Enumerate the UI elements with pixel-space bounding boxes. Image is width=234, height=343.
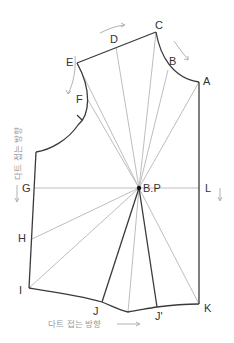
bodice-pattern-diagram: C D E B A F G B.P L H I J J' K 다트 접는 방향 …	[0, 0, 234, 343]
point-labels: C D E B A F G B.P L H I J J' K	[18, 19, 212, 322]
waistline-dart-point	[102, 302, 157, 312]
waistline-left	[29, 288, 102, 302]
armhole-curve	[36, 63, 88, 152]
side-seam-line	[29, 152, 36, 288]
pattern-outline	[29, 32, 199, 312]
label-a: A	[203, 75, 211, 87]
label-b: B	[169, 55, 176, 67]
left-direction-note: 다트 접는 방향	[13, 127, 23, 180]
arrow-shoulder-icon	[100, 25, 124, 33]
label-l: L	[205, 182, 211, 194]
armhole-notch	[77, 115, 82, 120]
label-e: E	[66, 56, 73, 68]
label-h: H	[18, 232, 26, 244]
label-bp: B.P	[143, 182, 161, 194]
guide-line-bp-d	[116, 47, 139, 188]
guide-line-bp-f	[88, 100, 139, 188]
label-c: C	[155, 19, 163, 31]
label-k: K	[204, 302, 212, 314]
bottom-direction-note: 다트 접는 방향	[48, 319, 101, 329]
label-f: F	[76, 93, 83, 105]
label-j: J	[93, 305, 99, 317]
label-g: G	[22, 182, 31, 194]
guide-line-bp-c	[139, 32, 156, 188]
arrow-armhole-head-icon	[66, 90, 71, 94]
neckline-curve	[156, 32, 199, 82]
label-d: D	[110, 33, 118, 45]
label-i: I	[19, 284, 22, 296]
guide-line-bp-a	[139, 82, 199, 188]
guide-line-bp-b	[139, 70, 168, 188]
waistline-right	[157, 304, 199, 307]
radiating-guide-lines	[29, 32, 199, 312]
direction-arrows	[15, 23, 222, 326]
label-j-prime: J'	[155, 310, 163, 322]
bust-point-marker	[137, 186, 141, 190]
guide-line-bp-e	[77, 63, 139, 188]
guide-line-bp-h	[32, 188, 139, 239]
